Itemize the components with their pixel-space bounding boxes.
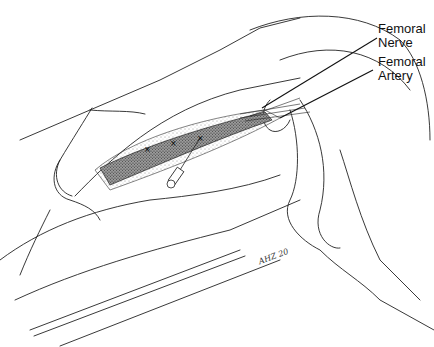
label-line: Femoral: [378, 55, 426, 69]
thigh-illustration: × × ×: [0, 0, 434, 347]
label-line: Femoral: [378, 22, 426, 36]
artery-leader-line: [280, 70, 373, 118]
label-line: Nerve: [378, 36, 426, 50]
illustration-canvas: × × × Femoral Nerve Femoral Artery AHZ 2…: [0, 0, 434, 347]
label-line: Artery: [378, 69, 426, 83]
label-femoral-nerve: Femoral Nerve: [378, 22, 426, 50]
label-femoral-artery: Femoral Artery: [378, 55, 426, 83]
svg-text:×: ×: [197, 134, 204, 143]
svg-text:×: ×: [170, 139, 177, 148]
svg-text:×: ×: [144, 145, 151, 154]
